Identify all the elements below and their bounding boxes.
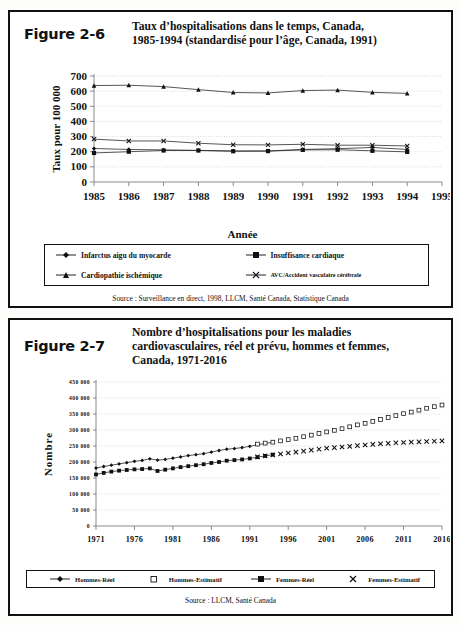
cross-marker-icon xyxy=(342,574,364,584)
svg-text:1996: 1996 xyxy=(279,535,297,544)
legend-label-cardiopathie: Cardiopathie ischémique xyxy=(81,271,162,280)
svg-text:400: 400 xyxy=(71,115,88,127)
legend-item-femmes-estimatif[interactable]: Femmes-Estimatif xyxy=(334,574,420,584)
svg-text:1986: 1986 xyxy=(203,535,221,544)
svg-text:0: 0 xyxy=(82,176,88,188)
svg-text:500: 500 xyxy=(71,100,88,112)
svg-text:1994: 1994 xyxy=(396,190,419,202)
svg-text:1986: 1986 xyxy=(118,190,141,202)
svg-text:200 000: 200 000 xyxy=(69,459,90,465)
cross-marker-icon xyxy=(245,270,267,280)
svg-text:1988: 1988 xyxy=(187,190,210,202)
legend-item-hommes-estimatif[interactable]: Hommes-Estimatif xyxy=(135,574,222,584)
figure-2-7-panel: Figure 2-7 Nombre d’hospitalisations pou… xyxy=(8,318,453,616)
svg-text:350 000: 350 000 xyxy=(69,411,90,417)
svg-text:600: 600 xyxy=(71,85,88,97)
figure-2-6-title: Taux d’hospitalisations dans le temps, C… xyxy=(132,20,441,48)
triangle-marker-icon xyxy=(55,270,77,280)
svg-text:700: 700 xyxy=(71,70,88,82)
figure-2-6-label: Figure 2-6 xyxy=(24,26,105,42)
svg-text:2006: 2006 xyxy=(356,535,374,544)
svg-text:1990: 1990 xyxy=(257,190,280,202)
legend-item-avc[interactable]: AVC/Accident vasculaire cérébrale xyxy=(237,270,427,280)
legend-item-infarctus[interactable]: Infarctus aigu du myocarde xyxy=(47,250,237,260)
svg-text:1989: 1989 xyxy=(222,190,245,202)
figure-2-6-source: Source : Surveillance en direct, 1998, L… xyxy=(10,294,451,303)
svg-text:50 000: 50 000 xyxy=(72,507,90,513)
figure-2-7-chart: 050 000100 000150 000200 000250 000300 0… xyxy=(38,374,450,566)
svg-text:2001: 2001 xyxy=(318,535,336,544)
svg-text:100: 100 xyxy=(71,160,88,172)
figure-2-6-plot: 0100200300400500600700198519861987198819… xyxy=(50,70,450,220)
figure-2-6-xaxis-caption: Année xyxy=(22,228,461,240)
figure-2-6-chart: 0100200300400500600700198519861987198819… xyxy=(50,70,450,220)
square-marker-icon xyxy=(250,574,272,584)
figure-2-6-header: Figure 2-6 Taux d’hospitalisations dans … xyxy=(10,12,451,64)
legend-item-femmes-reel[interactable]: Femmes-Réel xyxy=(242,574,314,584)
svg-text:1976: 1976 xyxy=(126,535,144,544)
figure-2-6-legend: Infarctus aigu du myocarde Insuffisance … xyxy=(44,244,429,286)
svg-text:2011: 2011 xyxy=(395,535,412,544)
figure-2-7-label: Figure 2-7 xyxy=(24,338,105,354)
svg-text:Taux pour 100 000: Taux pour 100 000 xyxy=(50,85,62,173)
svg-text:1987: 1987 xyxy=(153,190,176,202)
diamond-marker-icon xyxy=(55,250,77,260)
svg-text:Nombre: Nombre xyxy=(42,432,54,476)
figure-2-6-panel: Figure 2-6 Taux d’hospitalisations dans … xyxy=(8,10,453,308)
figure-2-7-header: Figure 2-7 Nombre d’hospitalisations pou… xyxy=(10,320,451,372)
svg-text:1991: 1991 xyxy=(241,535,259,544)
legend-label-insuffisance: Insuffisance cardiaque xyxy=(271,251,345,260)
figure-2-7-legend: Hommes-Réel Hommes-Estimatif Femmes-Réel xyxy=(26,570,435,588)
svg-text:250 000: 250 000 xyxy=(69,443,90,449)
figure-2-7-title-line2: cardiovasculaires, réel et prévu, hommes… xyxy=(132,340,441,354)
legend-label-femmes-reel: Femmes-Réel xyxy=(276,576,314,583)
legend-item-hommes-reel[interactable]: Hommes-Réel xyxy=(41,574,115,584)
svg-text:200: 200 xyxy=(71,145,88,157)
svg-text:150 000: 150 000 xyxy=(69,475,90,481)
svg-text:100 000: 100 000 xyxy=(69,491,90,497)
open-square-marker-icon xyxy=(143,574,165,584)
svg-text:1991: 1991 xyxy=(292,190,314,202)
diamond-marker-icon xyxy=(49,574,71,584)
svg-text:1993: 1993 xyxy=(361,190,384,202)
figure-2-7-title-line1: Nombre d’hospitalisations pour les malad… xyxy=(132,326,441,340)
figure-2-7-title: Nombre d’hospitalisations pour les malad… xyxy=(132,326,441,368)
figure-2-7-plot: 050 000100 000150 000200 000250 000300 0… xyxy=(38,374,450,566)
legend-label-femmes-estimatif: Femmes-Estimatif xyxy=(368,576,420,583)
legend-item-cardiopathie[interactable]: Cardiopathie ischémique xyxy=(47,270,237,280)
svg-text:1992: 1992 xyxy=(327,190,350,202)
legend-label-hommes-estimatif: Hommes-Estimatif xyxy=(169,576,222,583)
legend-label-infarctus: Infarctus aigu du myocarde xyxy=(81,251,171,260)
legend-label-hommes-reel: Hommes-Réel xyxy=(75,576,115,583)
svg-text:400 000: 400 000 xyxy=(69,395,90,401)
page-root: Figure 2-6 Taux d’hospitalisations dans … xyxy=(0,0,461,625)
svg-text:1981: 1981 xyxy=(164,535,182,544)
svg-text:0: 0 xyxy=(87,523,90,529)
svg-text:450 000: 450 000 xyxy=(69,379,90,385)
figure-2-7-title-line3: Canada, 1971-2016 xyxy=(132,354,441,368)
svg-text:1985: 1985 xyxy=(83,190,106,202)
svg-text:300: 300 xyxy=(71,130,88,142)
legend-label-avc: AVC/Accident vasculaire cérébrale xyxy=(271,272,362,278)
svg-text:2016: 2016 xyxy=(433,535,450,544)
square-marker-icon xyxy=(245,250,267,260)
svg-text:1995: 1995 xyxy=(431,190,450,202)
svg-text:1971: 1971 xyxy=(87,535,105,544)
legend-item-insuffisance[interactable]: Insuffisance cardiaque xyxy=(237,250,427,260)
figure-2-6-title-line1: Taux d’hospitalisations dans le temps, C… xyxy=(132,20,441,34)
svg-text:300 000: 300 000 xyxy=(69,427,90,433)
figure-2-7-source: Source : LLCM, Santé Canada xyxy=(10,596,451,605)
figure-2-6-title-line2: 1985-1994 (standardisé pour l’âge, Canad… xyxy=(132,34,441,48)
